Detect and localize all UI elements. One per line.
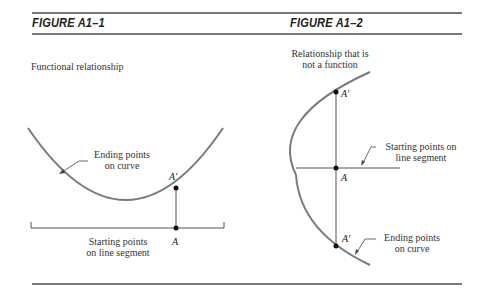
figure-a1-2-subtitle: Relationship that is not a function xyxy=(280,48,380,70)
figure-a1-2-curve-label: Ending points on curve xyxy=(374,232,450,254)
curve-label-line-2: on curve xyxy=(374,243,450,254)
point-a-prime-bottom xyxy=(334,244,339,249)
figure-a1-1-segment-label: Starting points on line segment xyxy=(68,236,168,258)
curve-label-line-2: on curve xyxy=(82,160,162,171)
figure-a1-2-point-a-label: A xyxy=(341,172,347,183)
point-a-prime xyxy=(174,186,179,191)
figure-a1-1-point-a-prime-label: A′ xyxy=(169,171,177,182)
segment-label-line-2: line segment xyxy=(376,152,466,163)
figure-a1-2-point-a-prime-top-label: A′ xyxy=(341,88,349,99)
curve-label-line-1: Ending points xyxy=(374,232,450,243)
point-a xyxy=(334,166,339,171)
figure-a1-2-segment-label: Starting points on line segment xyxy=(376,141,466,163)
segment-label-line-1: Starting points on xyxy=(376,141,466,152)
figure-a1-1-curve-label: Ending points on curve xyxy=(82,149,162,171)
point-a xyxy=(174,226,179,231)
segment-label-line-2: on line segment xyxy=(68,247,168,258)
figure-a1-1-diagram xyxy=(28,128,224,231)
curve-label-line-1: Ending points xyxy=(82,149,162,160)
figure-a1-2-point-a-prime-bottom-label: A′ xyxy=(342,233,350,244)
segment-label-line-1: Starting points xyxy=(68,236,168,247)
figure-a1-1-subtitle: Functional relationship xyxy=(31,61,124,72)
segment-label-leader-arrow xyxy=(363,147,376,163)
figure-a1-1-point-a-label: A xyxy=(172,236,178,247)
subtitle-line-1: Relationship that is xyxy=(280,48,380,59)
subtitle-line-2: not a function xyxy=(280,59,380,70)
point-a-prime-top xyxy=(334,90,339,95)
